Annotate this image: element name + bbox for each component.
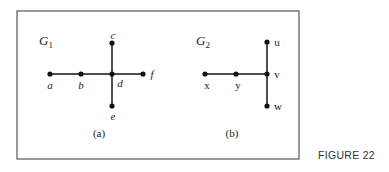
graph-caption: (b) — [226, 127, 239, 140]
vertex-a — [47, 71, 52, 76]
vertex-label-b: b — [78, 79, 84, 91]
graph-1: G1abdfce(a) — [39, 29, 155, 140]
vertex-label-c: c — [111, 29, 116, 41]
vertex-u — [264, 39, 269, 44]
vertex-label-e: e — [111, 110, 116, 122]
vertex-f — [140, 71, 145, 76]
vertex-d — [109, 71, 114, 76]
vertex-label-d: d — [117, 77, 123, 89]
vertex-y — [233, 71, 238, 76]
figure-canvas: G1abdfce(a)G2xyvuw(b) FIGURE 22 — [0, 0, 389, 172]
vertex-label-w: w — [274, 100, 282, 112]
vertex-b — [78, 71, 83, 76]
vertex-w — [264, 103, 269, 108]
vertex-label-f: f — [150, 68, 155, 80]
graphs-layer: G1abdfce(a)G2xyvuw(b) — [39, 29, 282, 140]
vertex-v — [264, 71, 269, 76]
vertex-x — [202, 71, 207, 76]
vertex-label-u: u — [274, 36, 280, 48]
vertex-label-v: v — [274, 68, 280, 80]
vertex-c — [109, 40, 114, 45]
graph-caption: (a) — [93, 127, 106, 140]
figure-label: FIGURE 22 — [318, 149, 375, 161]
vertex-label-a: a — [47, 79, 53, 91]
graph-title: G1 — [39, 33, 53, 50]
vertex-e — [109, 103, 114, 108]
figure-frame — [17, 11, 299, 159]
vertex-label-x: x — [204, 79, 210, 91]
graph-title: G2 — [196, 33, 210, 50]
graph-2: G2xyvuw(b) — [196, 33, 282, 140]
vertex-label-y: y — [235, 79, 241, 91]
